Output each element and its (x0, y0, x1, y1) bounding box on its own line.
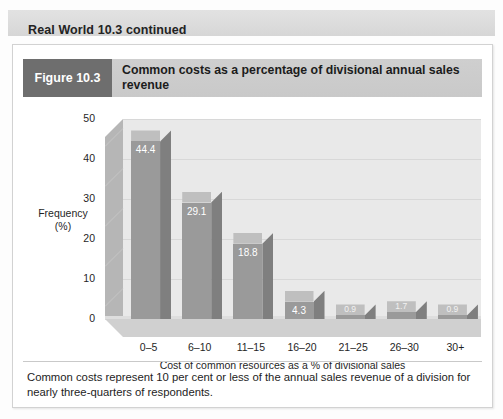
bar-top-face (131, 130, 160, 141)
y-axis-title-line2: (%) (23, 220, 103, 233)
figure-card: Figure 10.3 Common costs as a percentage… (12, 44, 493, 408)
y-axis-title: Frequency (%) (23, 207, 103, 233)
bar-value-label: 4.3 (285, 305, 314, 316)
bar-top-face (233, 233, 262, 244)
bar-column (233, 233, 262, 319)
bar-chart: 01020304050 Frequency (%) 44.429.118.84.… (23, 103, 482, 343)
bar-value-label: 29.1 (182, 206, 211, 217)
figure-caption: Common costs represent 10 per cent or le… (27, 370, 479, 400)
y-axis-tick-label: 30 (61, 192, 95, 204)
gridline (123, 239, 481, 240)
bar-value-label: 44.4 (131, 144, 160, 155)
gridline (123, 119, 481, 120)
chart-floor (105, 319, 481, 337)
bar-value-label: 1.7 (387, 301, 416, 311)
gridline (123, 279, 481, 280)
y-axis-tick-label: 50 (61, 112, 95, 124)
x-axis-tick-label: 30+ (423, 341, 487, 353)
bar-side-face (262, 233, 273, 319)
gridline (123, 199, 481, 200)
bar-top-face (285, 291, 314, 302)
screenshot-root: Real World 10.3 continued Figure 10.3 Co… (0, 0, 503, 419)
bar-front-face (387, 312, 416, 319)
bar-column (131, 130, 160, 319)
bar-value-label: 0.9 (438, 304, 467, 314)
bar-side-face (160, 130, 171, 319)
y-axis-tick-label: 20 (61, 232, 95, 244)
section-banner: Real World 10.3 continued (8, 10, 495, 36)
bar-value-label: 18.8 (233, 247, 262, 258)
bar-front-face (182, 203, 211, 319)
bar-value-label: 0.9 (336, 304, 365, 314)
caption-divider (23, 361, 482, 362)
y-axis-title-line1: Frequency (23, 207, 103, 220)
chart-back-wall (123, 119, 481, 319)
y-axis-tick-label: 40 (61, 152, 95, 164)
gridline (123, 159, 481, 160)
figure-header: Figure 10.3 Common costs as a percentage… (23, 59, 482, 97)
banner-title: Real World 10.3 continued (28, 23, 187, 37)
y-axis-tick-label: 0 (61, 312, 95, 324)
bar-side-face (211, 192, 222, 319)
bar-front-face (438, 315, 467, 319)
y-axis-tick-label: 10 (61, 272, 95, 284)
bar-front-face (131, 141, 160, 319)
figure-number-badge: Figure 10.3 (23, 59, 112, 97)
bar-top-face (182, 192, 211, 203)
bar-front-face (336, 315, 365, 319)
figure-title: Common costs as a percentage of division… (122, 63, 474, 93)
